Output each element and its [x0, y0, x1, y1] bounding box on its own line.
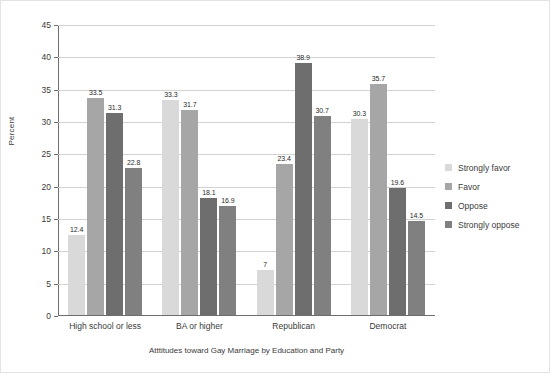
bar[interactable]: 35.7 [370, 84, 387, 315]
bar-value-label: 12.4 [70, 226, 83, 233]
bar-value-label: 31.7 [183, 101, 196, 108]
legend-label: Oppose [458, 201, 488, 211]
bar[interactable]: 22.8 [125, 168, 142, 315]
legend-item[interactable]: Oppose [445, 196, 519, 215]
legend-item[interactable]: Favor [445, 177, 519, 196]
legend-swatch-icon [445, 202, 452, 209]
y-axis-title: Percent [7, 71, 16, 191]
bar-value-label: 23.4 [278, 155, 291, 162]
bar-value-label: 31.3 [108, 104, 121, 111]
bar-value-label: 7 [263, 261, 267, 268]
bar-value-label: 22.8 [127, 159, 140, 166]
bar[interactable]: 38.9 [295, 63, 312, 315]
bar-value-label: 38.9 [297, 54, 310, 61]
bar-value-label: 35.7 [372, 75, 385, 82]
bar-group: 30.335.719.614.5Democrat [341, 24, 435, 315]
bar[interactable]: 33.3 [162, 100, 179, 315]
legend-swatch-icon [445, 164, 452, 171]
bar-value-label: 18.1 [202, 189, 215, 196]
y-tick-label: 10 [42, 246, 51, 256]
bar-group: 33.331.718.116.9BA or higher [152, 24, 246, 315]
bar-group: 723.438.930.7Republican [247, 24, 341, 315]
bar-value-label: 30.3 [353, 110, 366, 117]
bar[interactable]: 19.6 [389, 188, 406, 315]
x-category-label: BA or higher [176, 321, 223, 331]
x-axis-title: Atttitudes toward Gay Marriage by Educat… [58, 346, 435, 355]
y-tick-mark [54, 316, 58, 317]
bar-value-label: 14.5 [410, 212, 423, 219]
legend-swatch-icon [445, 183, 452, 190]
x-axis-line [58, 315, 435, 316]
legend-label: Strongly favor [458, 163, 510, 173]
y-tick-label: 25 [42, 149, 51, 159]
bar[interactable]: 14.5 [408, 221, 425, 315]
bar[interactable]: 30.7 [314, 116, 331, 315]
bar[interactable]: 31.7 [181, 110, 198, 315]
y-tick-label: 15 [42, 214, 51, 224]
bar-value-label: 30.7 [316, 107, 329, 114]
x-category-label: Republican [272, 321, 315, 331]
y-tick-label: 0 [46, 311, 51, 321]
bar[interactable]: 33.5 [87, 98, 104, 315]
plot-area: 051015202530354045 12.433.531.322.8High … [58, 25, 435, 316]
legend-item[interactable]: Strongly favor [445, 158, 519, 177]
y-tick-label: 40 [42, 52, 51, 62]
bar-value-label: 19.6 [391, 179, 404, 186]
y-tick-label: 45 [42, 20, 51, 30]
bar-value-label: 33.3 [164, 91, 177, 98]
x-category-label: Democrat [369, 321, 406, 331]
legend-item[interactable]: Strongly oppose [445, 215, 519, 234]
legend-label: Strongly oppose [458, 220, 519, 230]
y-tick-label: 5 [46, 279, 51, 289]
bar[interactable]: 30.3 [351, 119, 368, 315]
bar-value-label: 16.9 [221, 197, 234, 204]
legend-label: Favor [458, 182, 480, 192]
bar[interactable]: 7 [257, 270, 274, 315]
y-tick-label: 30 [42, 117, 51, 127]
bar[interactable]: 18.1 [200, 198, 217, 315]
x-category-label: High school or less [69, 321, 141, 331]
bar-group: 12.433.531.322.8High school or less [58, 24, 152, 315]
bar[interactable]: 12.4 [68, 235, 85, 315]
bar[interactable]: 31.3 [106, 113, 123, 315]
chart-legend: Strongly favorFavorOpposeStrongly oppose [445, 158, 519, 234]
y-tick-label: 20 [42, 182, 51, 192]
bar[interactable]: 16.9 [219, 206, 236, 315]
y-tick-label: 35 [42, 85, 51, 95]
legend-swatch-icon [445, 221, 452, 228]
bar-chart-figure: Percent 051015202530354045 12.433.531.32… [0, 0, 550, 373]
bar[interactable]: 23.4 [276, 164, 293, 315]
bar-value-label: 33.5 [89, 89, 102, 96]
